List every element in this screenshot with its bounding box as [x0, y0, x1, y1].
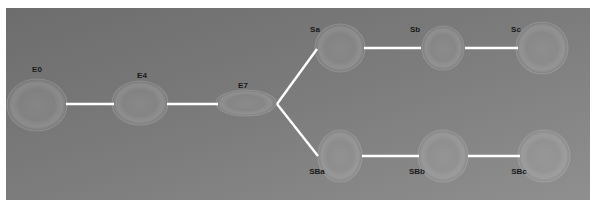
diagram-figure: E0E4E7SaSbScSBaSBbSBc	[0, 0, 596, 212]
node-label-Sc: Sc	[511, 25, 521, 34]
node-halo-SBb	[418, 130, 468, 182]
node-label-SBb: SBb	[409, 167, 425, 176]
node-label-SBa: SBa	[309, 167, 325, 176]
node-halo-Sc	[516, 22, 568, 74]
node-label-E7: E7	[238, 81, 248, 90]
node-label-E0: E0	[32, 65, 42, 74]
node-halo-E0	[7, 79, 67, 131]
node-halo-Sa	[315, 24, 365, 72]
node-label-SBc: SBc	[511, 167, 527, 176]
graph-canvas: E0E4E7SaSbScSBaSBbSBc	[0, 0, 596, 212]
node-label-E4: E4	[137, 71, 147, 80]
node-label-Sa: Sa	[310, 25, 320, 34]
node-halo-Sb	[422, 26, 464, 70]
node-halo-E7	[216, 90, 276, 116]
node-halo-E4	[112, 81, 168, 125]
node-label-Sb: Sb	[410, 25, 420, 34]
